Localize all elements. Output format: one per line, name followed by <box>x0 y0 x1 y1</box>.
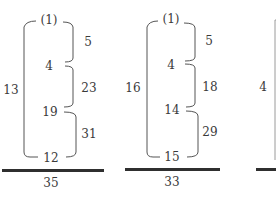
sum-divider <box>256 168 276 171</box>
difference-label: 18 <box>202 81 217 93</box>
sequence-term: 19 <box>42 106 57 118</box>
outer-label: 13 <box>3 84 18 96</box>
sum-divider <box>2 169 104 172</box>
sequence-term: 12 <box>43 152 58 164</box>
diagram-panel-1: (1) 4 19 12 5 23 31 13 35 <box>0 0 110 223</box>
sum-divider <box>125 168 220 171</box>
sequence-term: 15 <box>164 151 179 163</box>
sequence-term: (1) <box>163 13 180 25</box>
sequence-term: 4 <box>167 59 175 71</box>
outer-label: 4 <box>259 81 267 93</box>
bracket-lines <box>220 0 276 223</box>
outer-label: 16 <box>125 82 140 94</box>
sum-value: 33 <box>164 176 179 188</box>
difference-label: 5 <box>84 36 92 48</box>
difference-label: 29 <box>202 126 217 138</box>
diagram-panel-3: 4 <box>220 0 276 223</box>
sequence-term: 4 <box>45 60 53 72</box>
difference-label: 5 <box>205 35 213 47</box>
difference-label: 31 <box>81 128 96 140</box>
sequence-term: (1) <box>41 14 58 26</box>
sum-value: 35 <box>43 177 58 189</box>
difference-label: 23 <box>81 82 96 94</box>
sequence-term: 14 <box>164 104 179 116</box>
diagram-panel-2: (1) 4 14 15 5 18 29 16 33 <box>110 0 220 223</box>
